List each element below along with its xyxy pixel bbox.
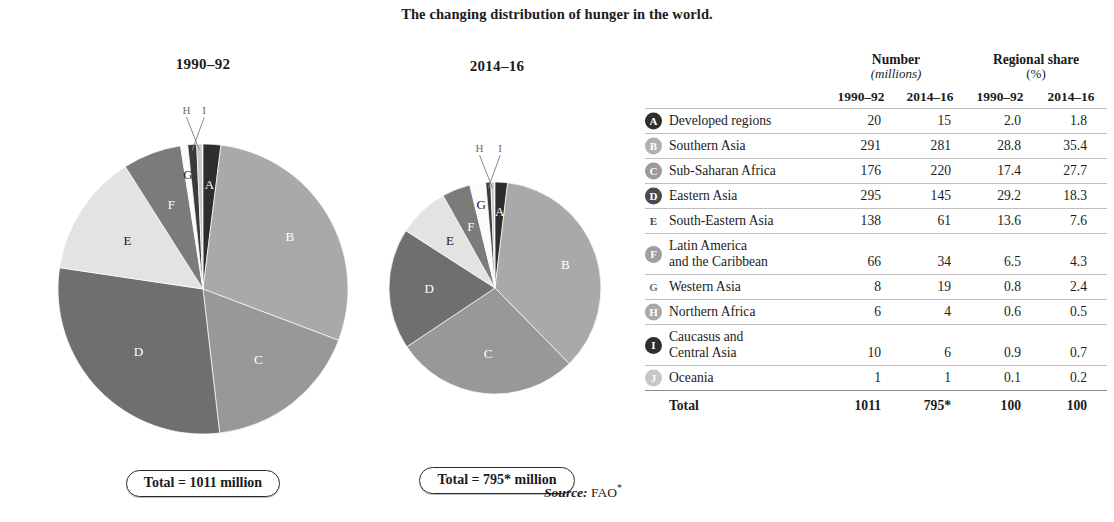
cell-number-2014-16: 61 [895, 208, 965, 233]
cell-share-2014-16: 1.8 [1035, 108, 1107, 133]
pie-slice-label-h: H [476, 142, 484, 154]
cell-number-1990-92: 66 [827, 233, 895, 274]
row-label-cell-f: FLatin Americaand the Caribbean [645, 233, 827, 274]
cell-share-2014-16: 18.3 [1035, 183, 1107, 208]
total-label-cell: Total [645, 391, 827, 419]
cell-number-2014-16: 1 [895, 366, 965, 391]
group-header-number-title: Number [872, 52, 920, 67]
source-note: Source: FAO* [430, 482, 622, 501]
row-label-cell-g: GWestern Asia [645, 274, 827, 299]
pie-slice-label-g: G [477, 197, 486, 212]
cell-number-1990-92: 138 [827, 208, 895, 233]
cell-share-1990-92: 6.5 [965, 233, 1035, 274]
row-label-cell-c: CSub-Saharan Africa [645, 158, 827, 183]
regional-data-table: Number (millions) Regional share (%) 199… [645, 52, 1107, 418]
year-header-number-2014-16: 2014–16 [895, 82, 965, 109]
pie-slice-label-d: D [425, 281, 434, 296]
cell-share-1990-92: 29.2 [965, 183, 1035, 208]
cell-number-2014-16: 4 [895, 300, 965, 325]
row-label-text: Latin Americaand the Caribbean [645, 238, 768, 270]
year-header-row: 1990–92 2014–16 1990–92 2014–16 [645, 82, 1107, 109]
cell-share-2014-16: 27.7 [1035, 158, 1107, 183]
pie-slice-label-g: G [183, 167, 192, 182]
group-header-share-title: Regional share [993, 52, 1079, 67]
table-total-row: Total1011795*100100 [645, 391, 1107, 419]
table-row: DEastern Asia29514529.218.3 [645, 183, 1107, 208]
total-badge-1990-92: Total = 1011 million [126, 470, 280, 497]
year-header-blank [645, 82, 827, 109]
cell-number-1990-92: 295 [827, 183, 895, 208]
cell-total-share-1990-92: 100 [965, 391, 1035, 419]
cell-total-number-2014-16: 795* [895, 391, 965, 419]
total-label: Total [645, 398, 699, 414]
group-header-blank [645, 52, 827, 82]
row-label-text: Sub-Saharan Africa [645, 163, 776, 179]
pie-slice-label-d: D [134, 344, 143, 359]
table-row: CSub-Saharan Africa17622017.427.7 [645, 158, 1107, 183]
row-label-cell-h: HNorthern Africa [645, 300, 827, 325]
cell-number-1990-92: 20 [827, 108, 895, 133]
cell-number-1990-92: 10 [827, 325, 895, 366]
cell-share-2014-16: 7.6 [1035, 208, 1107, 233]
cell-number-2014-16: 281 [895, 133, 965, 158]
cell-share-1990-92: 17.4 [965, 158, 1035, 183]
row-label-cell-b: BSouthern Asia [645, 133, 827, 158]
cell-share-1990-92: 2.0 [965, 108, 1035, 133]
cell-number-1990-92: 6 [827, 300, 895, 325]
cell-number-2014-16: 19 [895, 274, 965, 299]
cell-share-1990-92: 0.6 [965, 300, 1035, 325]
pie-chart-2014-16: ABCDEFGHI [372, 75, 622, 449]
pie-slice-label-i: I [498, 142, 502, 154]
table-row: ADeveloped regions20152.01.8 [645, 108, 1107, 133]
legend-marker-i-icon: I [645, 337, 662, 354]
table-row: ESouth-Eastern Asia1386113.67.6 [645, 208, 1107, 233]
pie-svg-1990-92: ABCDEFGHI [28, 73, 378, 448]
group-header-number: Number (millions) [827, 52, 965, 82]
cell-number-2014-16: 220 [895, 158, 965, 183]
legend-marker-c-icon: C [645, 162, 662, 179]
source-value: FAO [591, 485, 617, 500]
row-label-cell-a: ADeveloped regions [645, 108, 827, 133]
pie-panel-2014-16: 2014–16 ABCDEFGHI Total = 795* million [372, 52, 622, 482]
group-header-share: Regional share (%) [965, 52, 1107, 82]
cell-number-2014-16: 34 [895, 233, 965, 274]
source-label: Source: [544, 485, 588, 500]
year-header-share-2014-16: 2014–16 [1035, 82, 1107, 109]
pie-slice-label-e: E [124, 233, 132, 248]
pie-slice-label-h: H [182, 104, 190, 116]
pie-slice-label-f: F [168, 197, 175, 212]
row-label-text: South-Eastern Asia [645, 213, 774, 229]
cell-share-2014-16: 2.4 [1035, 274, 1107, 299]
cell-number-1990-92: 8 [827, 274, 895, 299]
pie-slice-label-c: C [484, 346, 493, 361]
table: Number (millions) Regional share (%) 199… [645, 52, 1107, 418]
cell-total-number-1990-92: 1011 [827, 391, 895, 419]
table-row: GWestern Asia8190.82.4 [645, 274, 1107, 299]
group-header-share-sub: (%) [965, 67, 1107, 82]
cell-number-1990-92: 1 [827, 366, 895, 391]
cell-share-1990-92: 0.1 [965, 366, 1035, 391]
pie-caption-1990-92: 1990–92 [28, 56, 378, 73]
pie-panel-1990-92: 1990–92 ABCDEFGHI Total = 1011 million [28, 52, 378, 482]
legend-marker-f-icon: F [645, 246, 662, 263]
cell-total-share-2014-16: 100 [1035, 391, 1107, 419]
legend-marker-b-icon: B [645, 137, 662, 154]
row-label-cell-j: JOceania [645, 366, 827, 391]
cell-share-1990-92: 28.8 [965, 133, 1035, 158]
group-header-row: Number (millions) Regional share (%) [645, 52, 1107, 82]
row-label-text: Developed regions [645, 113, 771, 129]
cell-share-1990-92: 0.9 [965, 325, 1035, 366]
legend-marker-h-icon: H [645, 304, 662, 321]
pie-slice-label-i: I [202, 104, 206, 116]
cell-share-1990-92: 13.6 [965, 208, 1035, 233]
table-row: BSouthern Asia29128128.835.4 [645, 133, 1107, 158]
cell-share-2014-16: 35.4 [1035, 133, 1107, 158]
table-head: Number (millions) Regional share (%) 199… [645, 52, 1107, 108]
legend-marker-g-icon: G [645, 279, 662, 296]
legend-marker-d-icon: D [645, 187, 662, 204]
table-body: ADeveloped regions20152.01.8BSouthern As… [645, 108, 1107, 418]
year-header-number-1990-92: 1990–92 [827, 82, 895, 109]
group-header-number-sub: (millions) [827, 67, 965, 82]
table-row: HNorthern Africa640.60.5 [645, 300, 1107, 325]
row-label-cell-e: ESouth-Eastern Asia [645, 208, 827, 233]
